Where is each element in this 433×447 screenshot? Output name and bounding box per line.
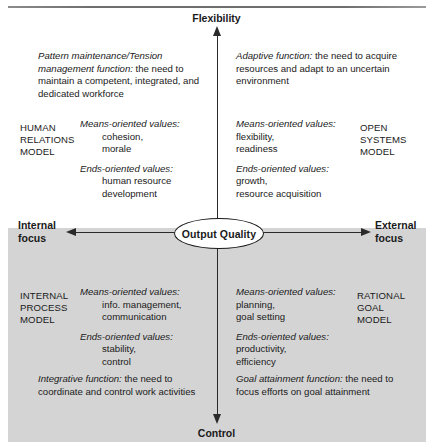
values-spacer (80, 324, 181, 331)
values-block-human-relations: Means-oriented values: cohesion, morale … (80, 118, 180, 201)
means-oriented-value-item: communication (80, 311, 181, 324)
axis-label-internal-focus: Internal focus (18, 219, 56, 245)
ends-oriented-value-item: productivity, (236, 343, 336, 356)
function-description-adaptive: Adaptive function: the need to acquire r… (236, 50, 404, 88)
top-divider-rule (8, 6, 426, 8)
axis-label-internal-focus-line1: Internal (18, 219, 56, 232)
values-spacer (236, 156, 336, 163)
axis-label-control: Control (0, 427, 433, 439)
model-label-line: INTERNAL (20, 290, 68, 302)
model-label-internal-process: INTERNAL PROCESS MODEL (20, 290, 68, 327)
model-label-line: MODEL (360, 146, 407, 158)
model-label-line: MODEL (20, 314, 68, 326)
function-name-italic: Adaptive function: (236, 50, 312, 61)
values-block-internal-process: Means-oriented values: info. management,… (80, 286, 181, 369)
model-label-line: MODEL (20, 146, 75, 158)
axis-label-external-focus: External focus (375, 219, 416, 245)
means-oriented-value-item: readiness (236, 143, 336, 156)
means-oriented-value-item: planning, (236, 299, 336, 312)
center-node-output-quality: Output Quality (174, 218, 264, 249)
model-label-line: HUMAN (20, 122, 75, 134)
values-spacer (236, 324, 336, 331)
ends-oriented-value-item: resource acquisition (236, 188, 336, 201)
means-oriented-values-header: Means-oriented values: (80, 286, 181, 299)
axis-label-external-focus-line2: focus (375, 232, 416, 245)
ends-oriented-values-header: Ends-oriented values: (236, 163, 336, 176)
model-label-line: RELATIONS (20, 134, 75, 146)
axis-label-internal-focus-line2: focus (18, 232, 56, 245)
ends-oriented-values-header: Ends-oriented values: (80, 331, 181, 344)
means-oriented-value-item: morale (80, 143, 180, 156)
means-oriented-value-item: cohesion, (80, 131, 180, 144)
means-oriented-value-item: flexibility, (236, 131, 336, 144)
ends-oriented-value-item: human resource (80, 175, 180, 188)
means-oriented-values-header: Means-oriented values: (236, 286, 336, 299)
ends-oriented-value-item: stability, (80, 343, 181, 356)
model-label-human-relations: HUMAN RELATIONS MODEL (20, 122, 75, 159)
ends-oriented-values-header: Ends-oriented values: (236, 331, 336, 344)
ends-oriented-value-item: development (80, 188, 180, 201)
competing-values-framework-diagram: Flexibility Control Internal focus Exter… (0, 0, 433, 447)
ends-oriented-value-item: growth, (236, 175, 336, 188)
model-label-line: GOAL (357, 302, 405, 314)
means-oriented-value-item: goal setting (236, 311, 336, 324)
model-label-line: RATIONAL (357, 290, 405, 302)
ends-oriented-value-item: control (80, 356, 181, 369)
function-name-italic: Goal attainment function: (236, 373, 343, 384)
function-name-italic: Integrative function: (38, 373, 122, 384)
horizontal-axis-line-right (257, 232, 363, 233)
means-oriented-values-header: Means-oriented values: (236, 118, 336, 131)
means-oriented-value-item: info. management, (80, 299, 181, 312)
axis-label-external-focus-line1: External (375, 219, 416, 232)
model-label-line: MODEL (357, 314, 405, 326)
values-block-rational-goal: Means-oriented values: planning, goal se… (236, 286, 336, 369)
function-description-pattern-maintenance: Pattern maintenance/Tension management f… (38, 50, 210, 100)
ends-oriented-value-item: efficiency (236, 356, 336, 369)
model-label-open-systems: OPEN SYSTEMS MODEL (360, 122, 407, 159)
model-label-line: OPEN (360, 122, 407, 134)
values-block-open-systems: Means-oriented values: flexibility, read… (236, 118, 336, 201)
model-label-rational-goal: RATIONAL GOAL MODEL (357, 290, 405, 327)
horizontal-axis-line-left (74, 232, 180, 233)
axis-label-flexibility: Flexibility (0, 12, 433, 24)
ends-oriented-values-header: Ends-oriented values: (80, 163, 180, 176)
model-label-line: PROCESS (20, 302, 68, 314)
external-focus-arrowhead-icon (361, 228, 371, 236)
control-arrowhead-icon (213, 414, 221, 424)
means-oriented-values-header: Means-oriented values: (80, 118, 180, 131)
function-description-integrative: Integrative function: the need to coordi… (38, 373, 210, 398)
model-label-line: SYSTEMS (360, 134, 407, 146)
values-spacer (80, 156, 180, 163)
function-description-goal-attainment: Goal attainment function: the need to fo… (236, 373, 414, 398)
